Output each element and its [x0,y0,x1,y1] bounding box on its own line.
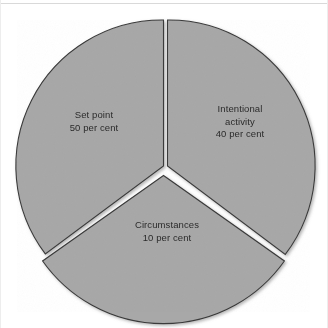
pie-chart-svg [0,0,328,328]
pie-chart: Set point 50 per cent Intentional activi… [0,0,328,328]
pie-chart-figure: Set point 50 per cent Intentional activi… [0,0,328,328]
